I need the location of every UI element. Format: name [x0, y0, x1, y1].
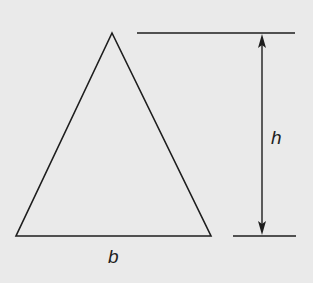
height-label: h — [271, 128, 282, 147]
triangle-shape — [16, 33, 211, 236]
base-label: b — [108, 247, 119, 266]
triangle-diagram: b h — [0, 0, 313, 283]
diagram-graphics — [0, 0, 313, 283]
